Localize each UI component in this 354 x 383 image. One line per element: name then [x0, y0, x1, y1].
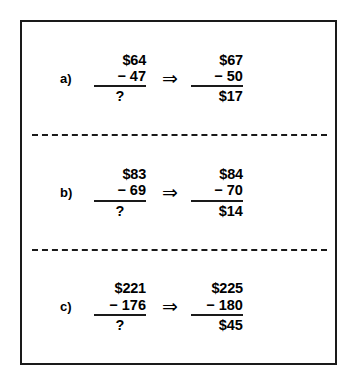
operator-row-b-transformed: − 70: [191, 182, 243, 198]
operator-row-b-original: − 69: [94, 182, 146, 198]
subtraction-line-a-transformed: − 50: [191, 68, 243, 87]
transformed-expression-c: $225 − 180 $45: [191, 280, 243, 333]
subtraction-line-b-transformed: − 70: [191, 182, 243, 201]
implies-arrow-icon-c: ⇒: [146, 297, 191, 316]
minuend-c-transformed: $225: [191, 280, 243, 296]
original-expression-a: $64 − 47 ?: [94, 52, 146, 105]
subtrahend-c-transformed: 180: [219, 297, 243, 313]
minuend-a-transformed: $67: [191, 52, 243, 68]
answer-a-original: ?: [94, 87, 146, 104]
answer-a-transformed: $17: [191, 87, 243, 104]
minuend-c-original: $221: [94, 280, 146, 296]
subtraction-line-b-original: − 69: [94, 182, 146, 201]
problem-row-b: b) $83 − 69 ? ⇒ $84 − 70: [22, 136, 335, 248]
operator-row-a-original: − 47: [94, 68, 146, 84]
problem-row-a: a) $64 − 47 ? ⇒ $67 − 50: [22, 22, 335, 134]
answer-c-transformed: $45: [191, 316, 243, 333]
minus-sign-c-original: −: [109, 297, 117, 313]
subtraction-line-c-transformed: − 180: [191, 297, 243, 316]
subtrahend-c-original: 176: [122, 297, 146, 313]
answer-b-original: ?: [94, 202, 146, 219]
subtrahend-b-original: 69: [130, 182, 146, 198]
implies-arrow-icon-b: ⇒: [146, 183, 191, 202]
transformed-expression-b: $84 − 70 $14: [191, 166, 243, 219]
original-expression-b: $83 − 69 ?: [94, 166, 146, 219]
operator-row-c-transformed: − 180: [191, 297, 243, 313]
subtrahend-a-original: 47: [130, 68, 146, 84]
minuend-b-transformed: $84: [191, 166, 243, 182]
implies-arrow-icon-a: ⇒: [146, 69, 191, 88]
subtrahend-a-transformed: 50: [227, 68, 243, 84]
subtraction-line-c-original: − 176: [94, 297, 146, 316]
minus-sign-c-transformed: −: [206, 297, 214, 313]
original-expression-c: $221 − 176 ?: [94, 280, 146, 333]
minus-sign-a-original: −: [117, 68, 125, 84]
subtraction-line-a-original: − 47: [94, 68, 146, 87]
worksheet-figure-box: a) $64 − 47 ? ⇒ $67 − 50: [20, 20, 337, 365]
problem-label-c: c): [60, 300, 94, 313]
operator-row-a-transformed: − 50: [191, 68, 243, 84]
transformed-expression-a: $67 − 50 $17: [191, 52, 243, 105]
minuend-b-original: $83: [94, 166, 146, 182]
minuend-a-original: $64: [94, 52, 146, 68]
minus-sign-b-transformed: −: [214, 182, 222, 198]
minus-sign-b-original: −: [117, 182, 125, 198]
problem-row-a-content: a) $64 − 47 ? ⇒ $67 − 50: [22, 52, 335, 105]
problem-label-b: b): [60, 186, 94, 199]
answer-c-original: ?: [94, 316, 146, 333]
problem-label-a: a): [60, 72, 94, 85]
problem-row-c-content: c) $221 − 176 ? ⇒ $225 − 180: [22, 280, 335, 333]
operator-row-c-original: − 176: [94, 297, 146, 313]
problem-row-c: c) $221 − 176 ? ⇒ $225 − 180: [22, 251, 335, 363]
subtrahend-b-transformed: 70: [227, 182, 243, 198]
answer-b-transformed: $14: [191, 202, 243, 219]
minus-sign-a-transformed: −: [214, 68, 222, 84]
problem-row-b-content: b) $83 − 69 ? ⇒ $84 − 70: [22, 166, 335, 219]
